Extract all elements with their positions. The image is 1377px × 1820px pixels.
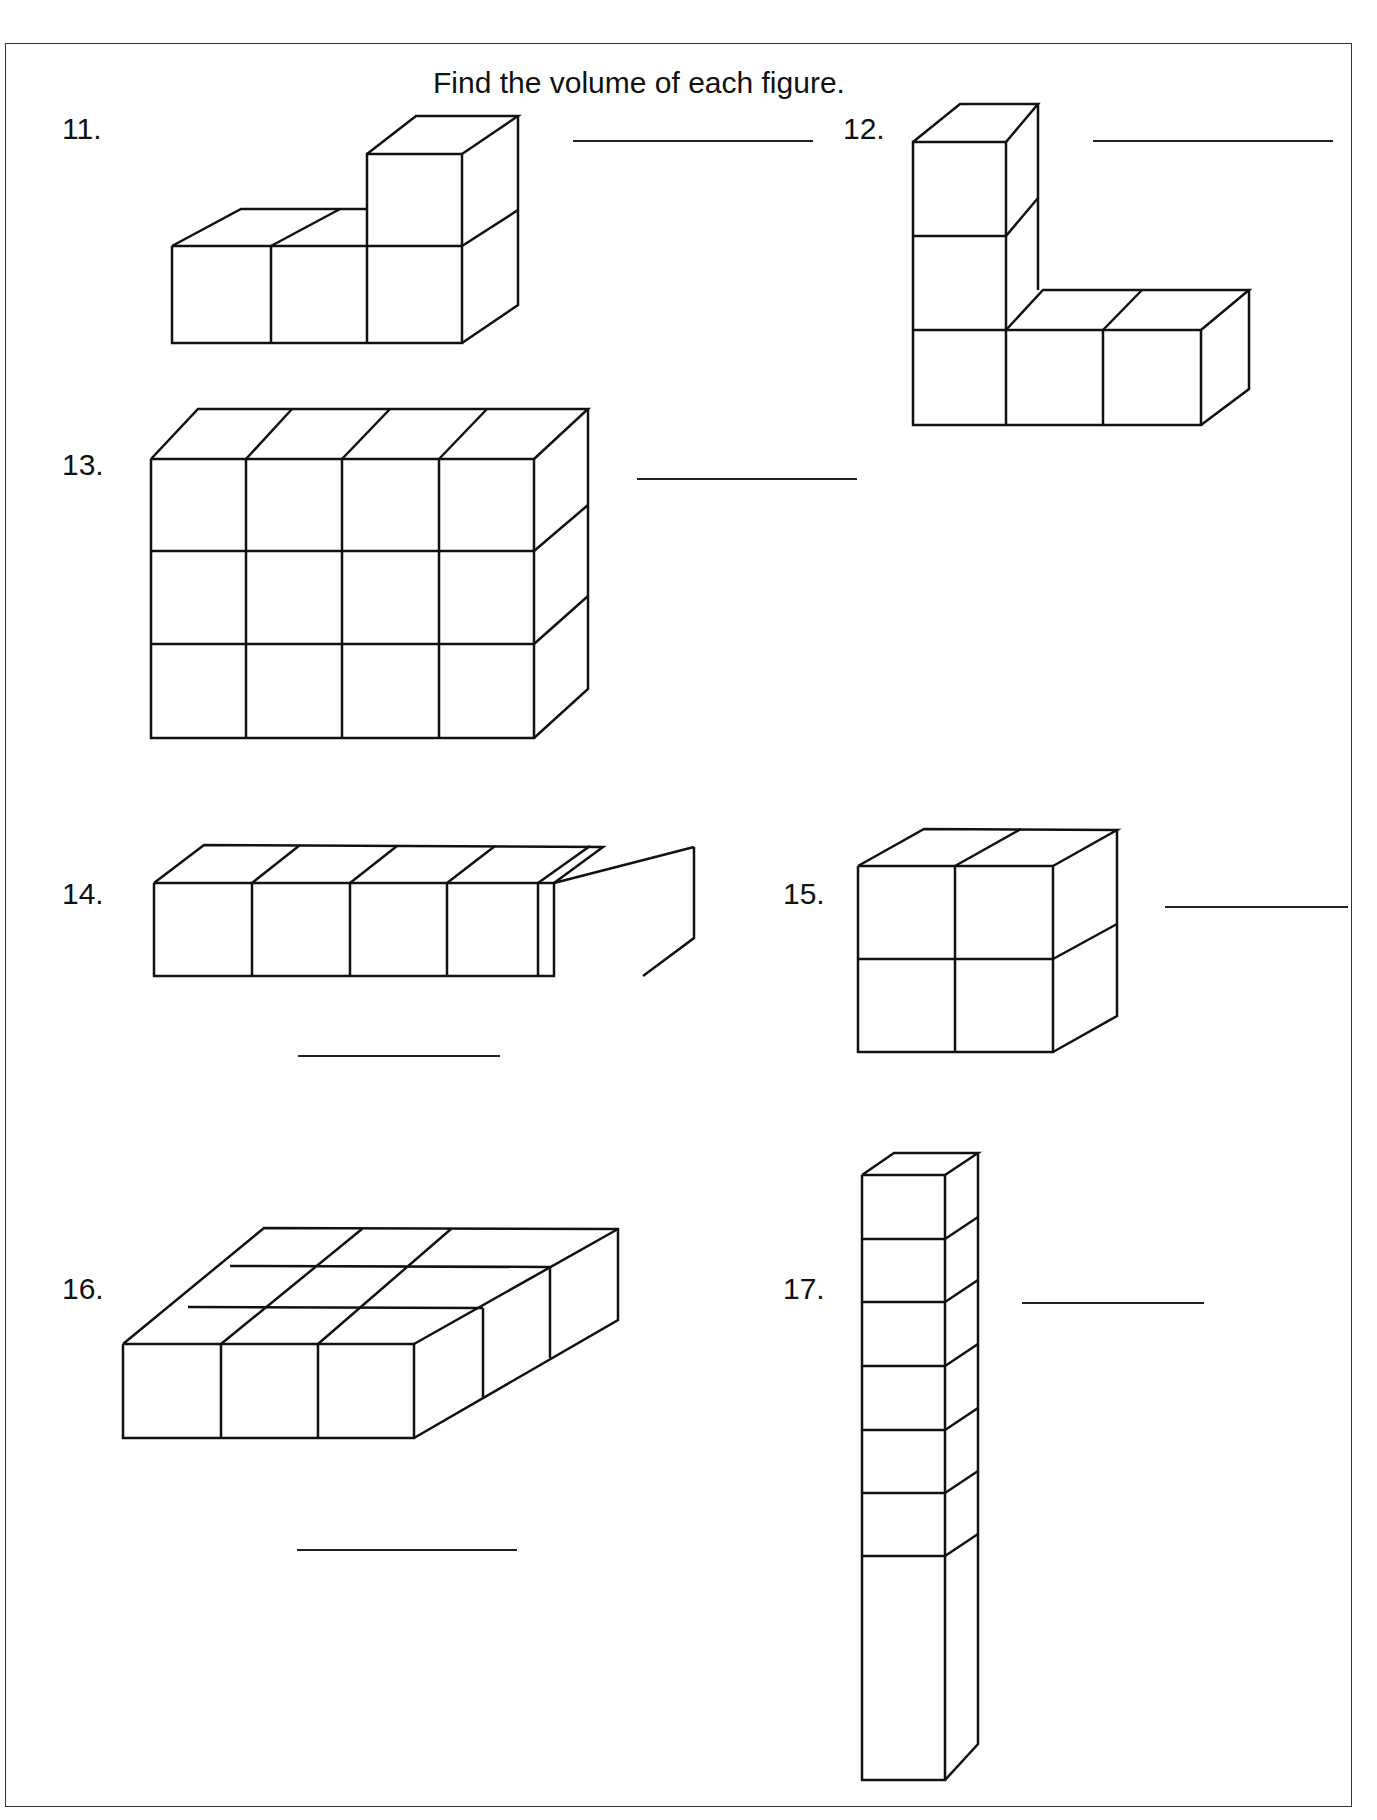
problem-14-number: 14. (62, 877, 104, 911)
problem-12-answer-blank[interactable] (1093, 140, 1333, 142)
problem-15-answer-blank[interactable] (1165, 906, 1348, 908)
problem-13-number: 13. (62, 448, 104, 482)
problem-16-number: 16. (62, 1272, 104, 1306)
problem-12-number: 12. (843, 112, 885, 146)
problem-17-answer-blank[interactable] (1022, 1302, 1204, 1304)
problem-11-answer-blank[interactable] (573, 140, 813, 142)
worksheet-border (5, 43, 1352, 1807)
problem-11-number: 11. (62, 112, 101, 146)
problem-16-answer-blank[interactable] (297, 1549, 517, 1551)
problem-15-number: 15. (783, 877, 825, 911)
problem-17-number: 17. (783, 1272, 825, 1306)
worksheet-title: Find the volume of each figure. (433, 66, 845, 100)
problem-14-answer-blank[interactable] (298, 1055, 500, 1057)
problem-13-answer-blank[interactable] (637, 478, 857, 480)
